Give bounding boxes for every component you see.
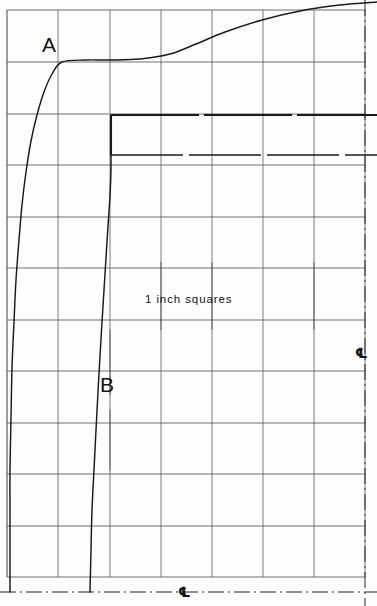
technical-drawing-canvas: A B 1 inch squares ℄ ℄ [0, 0, 377, 606]
label-curve-a: A [42, 33, 56, 56]
grid-note-text: 1 inch squares [145, 293, 232, 305]
centerline-symbol-right-icon: ℄ [355, 345, 368, 361]
centerline-symbol-bottom-icon: ℄ [178, 584, 191, 600]
drawing-sheet: A B 1 inch squares ℄ ℄ [0, 0, 377, 606]
label-curve-b: B [100, 373, 114, 396]
